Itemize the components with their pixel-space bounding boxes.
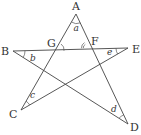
angle-arc-f-inner [83,44,85,48]
angle-label-b: b [30,53,36,63]
angle-arc-d [119,115,124,118]
angle-label-d: d [111,104,117,114]
angle-arc-e [116,48,118,54]
label-c: C [9,108,17,121]
angle-label-e: e [107,47,112,57]
label-g: G [47,37,56,50]
label-b: B [1,45,9,58]
label-e: E [132,43,140,56]
pentagram-diagram: A B C D E F G a b c d e [0,0,141,135]
angle-arc-b [23,51,25,58]
label-d: D [130,121,139,134]
angle-label-a: a [74,23,79,33]
segment-ce [21,48,128,110]
label-a: A [71,0,81,13]
angle-arc-c [26,101,30,105]
label-f: F [91,35,99,48]
angle-label-c: c [30,90,35,100]
